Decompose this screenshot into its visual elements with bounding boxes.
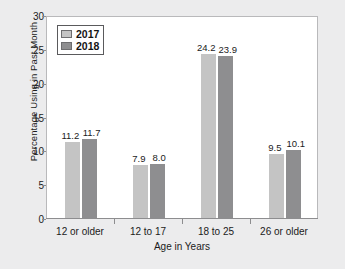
y-tick-label: 5 (0, 180, 44, 191)
x-tick-label: 12 or older (56, 226, 104, 237)
y-tick-label: 15 (0, 112, 44, 123)
y-tick-label: 30 (0, 11, 44, 22)
x-tick-label: 18 to 25 (198, 226, 234, 237)
bar-group: 7.98.0 (115, 17, 183, 218)
y-axis-title: Percentage Using in Past Month (28, 0, 39, 187)
bar-value-label: 9.5 (268, 142, 281, 153)
bar-value-label: 24.2 (197, 42, 216, 53)
bar-group-bars: 9.510.1 (251, 17, 319, 218)
y-tick-label: 25 (0, 44, 44, 55)
bar-2018[interactable]: 23.9 (218, 56, 233, 218)
bar-group: 9.510.1 (251, 17, 319, 218)
x-tick-label: 12 to 17 (130, 226, 166, 237)
bar-2018[interactable]: 8.0 (150, 164, 165, 218)
y-tick-label: 20 (0, 78, 44, 89)
y-tick-label: 10 (0, 146, 44, 157)
x-axis-separator (182, 219, 183, 224)
y-tick-mark (42, 219, 46, 220)
bar-chart-figure: Percentage Using in Past Month 11.211.77… (0, 0, 345, 269)
y-tick-mark (42, 118, 46, 119)
bar-2017[interactable]: 24.2 (201, 54, 216, 218)
legend-label-2017: 2017 (76, 29, 99, 40)
bar-value-label: 10.1 (286, 138, 305, 149)
bar-value-label: 7.9 (132, 153, 145, 164)
y-tick-mark (42, 16, 46, 17)
bar-value-label: 8.0 (152, 152, 165, 163)
bar-group-bars: 7.98.0 (115, 17, 183, 218)
x-axis-separator (250, 219, 251, 224)
x-axis-title: Age in Years (46, 241, 318, 252)
bar-value-label: 11.2 (61, 130, 79, 141)
y-tick-mark (42, 84, 46, 85)
legend-item-2017: 2017 (61, 28, 99, 40)
bar-value-label: 11.7 (83, 127, 101, 138)
y-tick-label: 0 (0, 214, 44, 225)
x-axis-separator (114, 219, 115, 224)
bar-2017[interactable]: 9.5 (269, 154, 284, 218)
bar-2017[interactable]: 11.2 (65, 142, 80, 218)
legend-swatch-2017-icon (61, 30, 72, 38)
bar-value-label: 23.9 (218, 44, 237, 55)
bar-2018[interactable]: 11.7 (82, 139, 97, 218)
legend-item-2018: 2018 (61, 40, 99, 52)
y-tick-mark (42, 151, 46, 152)
legend: 2017 2018 (57, 25, 104, 55)
y-tick-mark (42, 50, 46, 51)
bar-2017[interactable]: 7.9 (133, 165, 148, 218)
bar-group: 24.223.9 (183, 17, 251, 218)
x-tick-label: 26 or older (260, 226, 308, 237)
bar-group-bars: 24.223.9 (183, 17, 251, 218)
legend-label-2018: 2018 (76, 41, 99, 52)
y-tick-mark (42, 185, 46, 186)
bar-2018[interactable]: 10.1 (286, 150, 301, 218)
legend-swatch-2018-icon (61, 42, 72, 50)
